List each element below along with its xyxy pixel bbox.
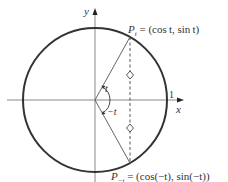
angle-label-minus-t: −t (107, 106, 117, 117)
y-axis-label: y (83, 5, 89, 17)
radius-to-p-t (95, 37, 130, 100)
point-label-p-minus-t: P−t = (cos(−t), sin(−t)) (110, 170, 210, 182)
unit-circle-diagram: y x 1 t −t Pt = (cos t, sin t) P−t = (co… (0, 0, 228, 182)
y-axis-arrow-icon (93, 8, 98, 15)
x-axis-arrow-icon (177, 98, 184, 103)
unit-tick-label: 1 (169, 89, 174, 100)
equal-mark-upper-icon (127, 71, 134, 79)
point-label-p-t: Pt = (cos t, sin t) (127, 23, 200, 38)
angle-label-t: t (105, 83, 108, 94)
x-axis-label: x (175, 103, 181, 115)
equal-mark-lower-icon (127, 124, 134, 132)
